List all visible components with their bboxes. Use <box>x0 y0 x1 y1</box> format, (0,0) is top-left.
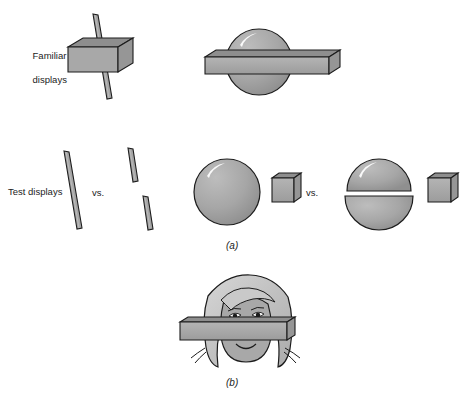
rod-segment-upper <box>128 148 138 182</box>
test-display-sphere-bar <box>194 159 301 225</box>
familiar-display-rod-block <box>68 14 133 99</box>
panel-b-face-behind-bar <box>180 275 300 367</box>
figure-canvas: Familiar displays Test displays vs. vs. … <box>0 0 476 407</box>
panel-b-label: (b) <box>226 377 238 389</box>
short-bar-icon <box>428 173 458 202</box>
familiar-display-bar-sphere <box>205 29 340 95</box>
vs-label-left: vs. <box>92 187 104 199</box>
vs-label-right: vs. <box>306 187 318 199</box>
test-display-single-rod <box>64 151 82 229</box>
familiar-label-line2: displays <box>33 74 67 85</box>
sphere-icon <box>194 159 260 225</box>
short-bar-icon <box>272 173 301 202</box>
horizontal-bar-icon <box>205 50 340 74</box>
test-displays-label: Test displays <box>8 186 62 198</box>
familiar-displays-label: Familiar displays <box>22 38 67 98</box>
figure-illustration <box>0 0 476 407</box>
test-display-split-sphere-bar <box>345 159 458 230</box>
split-sphere-icon <box>345 159 413 230</box>
rectangular-block-icon <box>68 38 133 72</box>
rod-segment-lower <box>143 196 153 230</box>
occluding-bar-icon <box>180 317 295 340</box>
familiar-label-line1: Familiar <box>33 50 67 61</box>
test-display-rod-segments <box>128 148 153 230</box>
panel-a-label: (a) <box>226 240 238 252</box>
